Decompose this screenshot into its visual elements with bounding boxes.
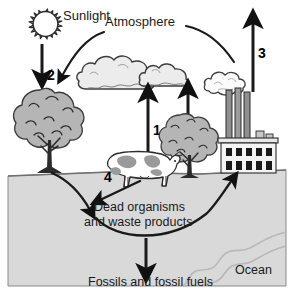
carbon-cycle-diagram: Sunlight Atmosphere 3 2: [0, 0, 294, 299]
carbon-cycle-canvas: Sunlight Atmosphere 3 2: [0, 0, 294, 299]
arrow-2-number: 2: [47, 67, 55, 83]
arrow-3-number: 3: [258, 45, 266, 61]
ocean-label: Ocean: [235, 263, 272, 277]
dead-organisms-label-line2: and waste products: [84, 215, 192, 229]
atmosphere-label: Atmosphere: [105, 14, 175, 29]
dead-organisms-label-line1: Dead organisms: [94, 200, 185, 214]
fossils-label: Fossils and fossil fuels: [88, 275, 213, 289]
sunlight-label: Sunlight: [63, 8, 110, 23]
arrow-4-number: 4: [104, 169, 112, 185]
